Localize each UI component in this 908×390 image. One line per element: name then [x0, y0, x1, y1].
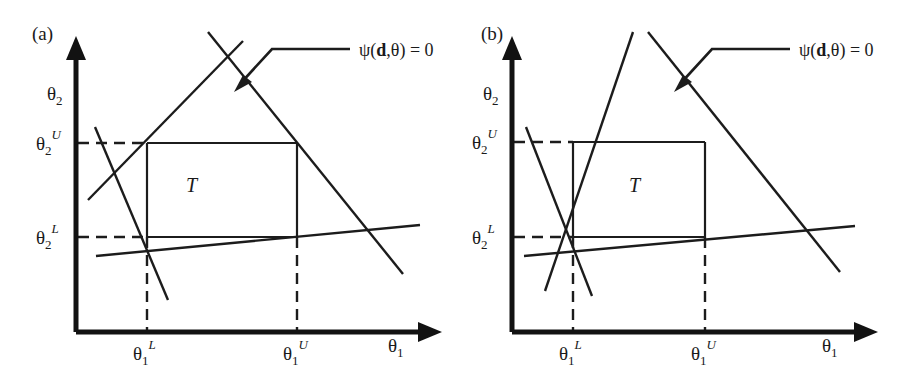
- panel-a-tick-theta2-upper: θ2U: [36, 127, 63, 158]
- panel-b-tick-theta2-lower-sup: L: [487, 221, 495, 236]
- panel-b-tick-theta1-upper: θ1U: [691, 337, 718, 368]
- panel-b-x-axis-label: θ1: [822, 335, 838, 360]
- panel-a-curve-label-middle: ,θ): [386, 40, 405, 61]
- panel-b-curve-label: ψ(d,θ) = 0: [799, 40, 874, 61]
- panel-a-label: (a): [32, 23, 53, 45]
- panel-b-tick-theta2-upper: θ2U: [472, 126, 499, 157]
- panel-a-tick-theta2-upper-sup: U: [52, 127, 63, 142]
- panel-a-curve-label-bold-d: d: [376, 40, 386, 60]
- panel-b: (b) ψ(d,θ): [472, 23, 878, 368]
- panel-b-tick-theta1-lower-sup: L: [574, 337, 582, 352]
- panel-a-curve-label-suffix: = 0: [405, 40, 433, 60]
- panel-a-tick-theta1-lower: θ1L: [133, 337, 156, 368]
- panel-b-y-axis-label: θ2: [483, 83, 499, 108]
- panel-b-label: (b): [481, 23, 503, 45]
- panel-b-tick-theta2-lower-sub: 2: [481, 237, 488, 252]
- panel-a-curve-label: ψ(d,θ) = 0: [359, 40, 434, 61]
- panel-b-tick-theta1-upper-base: θ: [691, 343, 700, 364]
- panel-b-curve-label-suffix: = 0: [845, 40, 873, 60]
- panel-a-constraint-shallow-rising: [96, 225, 420, 256]
- panel-a-y-axis-label: θ2: [47, 83, 63, 108]
- panel-b-tick-theta1-lower-sub: 1: [568, 353, 575, 368]
- panel-a-tick-theta2-lower: θ2L: [36, 221, 59, 252]
- panel-a-tick-theta2-lower-sub: 2: [45, 237, 52, 252]
- panel-b-tick-theta1-lower: θ1L: [559, 337, 582, 368]
- panel-a-tick-theta2-upper-sub: 2: [45, 143, 52, 158]
- panel-a-curve-label-prefix: ψ(: [359, 40, 376, 61]
- panel-b-x-axis-arrowhead: [854, 322, 878, 342]
- panel-a-y-axis-label-sub: 2: [56, 93, 63, 108]
- panel-a-tick-theta2-lower-base: θ: [36, 227, 45, 248]
- panel-b-tick-theta1-lower-base: θ: [559, 343, 568, 364]
- panel-a-y-axis-arrowhead: [66, 36, 86, 60]
- panel-a-constraint-falling-steep: [95, 127, 168, 300]
- panel-b-tick-theta1-upper-sub: 1: [700, 353, 707, 368]
- panel-b-curve-label-prefix: ψ(: [799, 40, 816, 61]
- panel-b-tick-theta2-lower: θ2L: [472, 221, 495, 252]
- panel-a-x-axis-arrowhead: [418, 322, 442, 342]
- panel-b-y-axis-arrowhead: [502, 36, 522, 60]
- panel-a-tick-theta1-lower-sub: 1: [142, 353, 149, 368]
- panel-b-curve-label-middle: ,θ): [826, 40, 845, 61]
- panel-a-tick-theta1-upper-base: θ: [283, 343, 292, 364]
- panel-a-tick-theta1-upper: θ1U: [283, 337, 310, 368]
- panel-a-leader-line: [240, 49, 350, 84]
- panel-a: (a) ψ(d,θ): [32, 23, 442, 368]
- panel-a-region-label: T: [186, 174, 199, 196]
- panel-b-constraint-falling-left: [526, 127, 592, 296]
- panel-a-x-axis-label: θ1: [388, 335, 404, 360]
- panel-a-x-axis-label-base: θ: [388, 335, 397, 356]
- panel-a-tick-theta1-lower-base: θ: [133, 343, 142, 364]
- panel-b-tick-theta2-lower-base: θ: [472, 227, 481, 248]
- figure-root: (a) ψ(d,θ): [0, 0, 908, 390]
- panel-a-tick-theta1-lower-sup: L: [148, 337, 156, 352]
- panel-b-tick-theta1-upper-sup: U: [707, 337, 718, 352]
- panel-b-y-axis-label-sub: 2: [492, 93, 499, 108]
- panel-b-x-axis-label-base: θ: [822, 335, 831, 356]
- panel-a-tick-theta2-lower-sup: L: [51, 221, 59, 236]
- panel-a-tick-theta1-upper-sup: U: [299, 337, 310, 352]
- panel-b-leader-arrowhead: [674, 75, 692, 92]
- panel-b-y-axis-label-base: θ: [483, 83, 492, 104]
- panel-b-curve-label-bold-d: d: [816, 40, 826, 60]
- panel-b-tick-theta2-upper-sup: U: [488, 126, 499, 141]
- panel-a-tick-theta1-upper-sub: 1: [292, 353, 299, 368]
- diagram-canvas: (a) ψ(d,θ): [0, 0, 908, 390]
- panel-b-region-label: T: [629, 174, 642, 196]
- panel-b-leader-line: [680, 49, 790, 84]
- panel-b-tick-theta2-upper-sub: 2: [481, 142, 488, 157]
- panel-b-tick-theta2-upper-base: θ: [472, 132, 481, 153]
- panel-a-y-axis-label-base: θ: [47, 83, 56, 104]
- panel-a-constraint-rising-left: [88, 41, 243, 200]
- panel-a-x-axis-label-sub: 1: [397, 345, 404, 360]
- panel-a-tick-theta2-upper-base: θ: [36, 133, 45, 154]
- panel-b-x-axis-label-sub: 1: [831, 345, 838, 360]
